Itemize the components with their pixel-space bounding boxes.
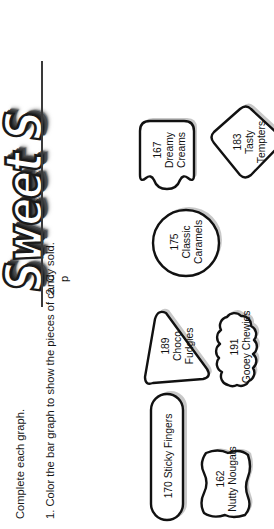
circle-icon bbox=[150, 205, 224, 279]
candy-shape-sticky-fingers[interactable]: 170 Sticky Fingers bbox=[148, 395, 190, 517]
candy-shape-dreamy-creams[interactable]: 167 Dreamy Creams bbox=[139, 108, 201, 192]
candy-shape-tasty-tempters[interactable]: 183 Tasty Tempters bbox=[210, 100, 274, 184]
diamond-icon bbox=[210, 100, 274, 184]
wrapped-candy-icon bbox=[139, 108, 201, 192]
item-2-text: 2. C p bbox=[44, 274, 70, 295]
triangle-wedge-icon bbox=[140, 302, 216, 390]
worksheet-page: Sweet S Complete each graph. 1. Color th… bbox=[0, 0, 274, 529]
candy-shape-choco-fudgies[interactable]: 189 Choco Fudgies bbox=[140, 302, 216, 390]
item-2-line-2: p bbox=[58, 274, 70, 282]
item-2-line-1: 2. C bbox=[44, 274, 56, 295]
section-divider bbox=[41, 61, 43, 307]
wavy-rectangle-icon bbox=[198, 437, 256, 521]
candy-shape-gooey-chewies[interactable]: 191 Gooey Chewies bbox=[218, 298, 264, 396]
candy-shape-classic-caramels[interactable]: 175 Classic Caramels bbox=[150, 205, 224, 279]
cloud-icon bbox=[218, 298, 264, 396]
rounded-bar-icon bbox=[148, 395, 190, 517]
candy-shape-nutty-nougats[interactable]: 162 Nutty Nougats bbox=[198, 437, 256, 521]
directions-text: Complete each graph. bbox=[14, 409, 26, 519]
